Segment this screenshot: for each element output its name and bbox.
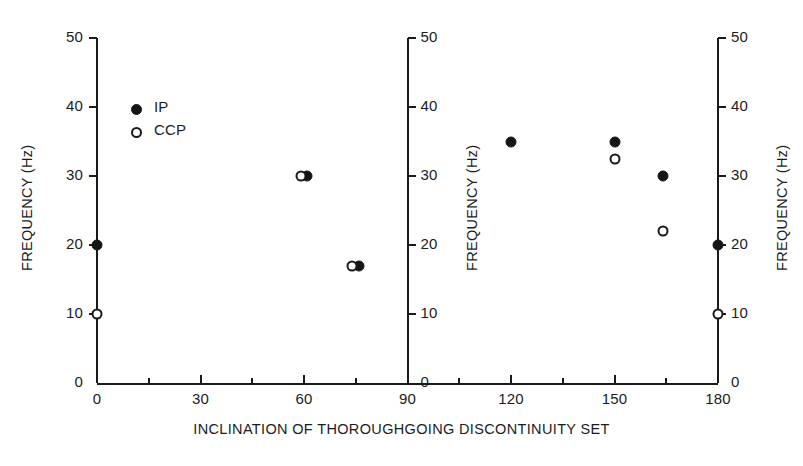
middle-axis-tick	[408, 106, 416, 108]
data-point-ccp	[609, 153, 620, 164]
left-axis-tick-label: 10	[43, 304, 83, 321]
right-axis-tick	[718, 106, 726, 108]
middle-axis-tick-label: 10	[421, 304, 438, 321]
x-axis-tick-minor	[251, 378, 253, 383]
middle-axis-title: FREQUENCY (Hz)	[464, 144, 480, 270]
x-axis-tick-label: 30	[192, 390, 209, 407]
right-axis-title: FREQUENCY (Hz)	[774, 144, 790, 270]
data-point-ccp	[657, 226, 668, 237]
plot-area: 030609012015018001020304050FREQUENCY (Hz…	[0, 0, 803, 466]
x-axis-tick-label: 150	[602, 390, 628, 407]
middle-axis-tick	[408, 244, 416, 246]
data-point-ccp	[295, 171, 306, 182]
right-axis-tick-label: 10	[731, 304, 748, 321]
x-axis-tick-label: 120	[498, 390, 524, 407]
right-axis-tick-label: 0	[731, 373, 740, 390]
x-axis-tick-minor	[355, 378, 357, 383]
middle-axis-tick	[408, 175, 416, 177]
right-axis-tick-label: 40	[731, 97, 748, 114]
data-point-ip	[609, 136, 620, 147]
x-axis-line	[97, 383, 718, 385]
left-axis-tick-label: 20	[43, 235, 83, 252]
x-axis-tick-major	[200, 375, 202, 383]
left-axis-tick-label: 0	[43, 373, 83, 390]
right-axis-tick	[718, 175, 726, 177]
data-point-ip	[92, 240, 103, 251]
legend-marker-filled-circle-icon	[131, 104, 142, 115]
x-axis-tick-label: 60	[295, 390, 312, 407]
x-axis-tick-major	[510, 375, 512, 383]
middle-axis-tick-label: 30	[421, 166, 438, 183]
x-axis-tick-minor	[665, 378, 667, 383]
legend-marker-open-circle-icon	[131, 127, 142, 138]
left-axis-tick-label: 40	[43, 97, 83, 114]
left-axis-tick	[89, 106, 97, 108]
figure-scatter-frequency-vs-inclination: 030609012015018001020304050FREQUENCY (Hz…	[0, 0, 803, 466]
left-axis-tick	[89, 175, 97, 177]
x-axis-tick-label: 90	[399, 390, 416, 407]
x-axis-title: INCLINATION OF THOROUGHGOING DISCONTINUI…	[0, 421, 803, 437]
middle-axis-tick-label: 0	[421, 373, 430, 390]
x-axis-tick-minor	[458, 378, 460, 383]
left-axis-title: FREQUENCY (Hz)	[19, 144, 35, 270]
x-axis-tick-label: 0	[93, 390, 102, 407]
legend-label-ip: IP	[154, 98, 169, 115]
left-axis-tick-label: 50	[43, 28, 83, 45]
x-axis-tick-minor	[148, 378, 150, 383]
legend-label-ccp: CCP	[154, 121, 186, 138]
x-axis-tick-label: 180	[705, 390, 731, 407]
middle-axis-tick-label: 20	[421, 235, 438, 252]
data-point-ccp	[92, 309, 103, 320]
right-axis-tick-label: 30	[731, 166, 748, 183]
x-axis-tick-major	[614, 375, 616, 383]
middle-axis-tick-label: 40	[421, 97, 438, 114]
middle-axis-tick	[408, 37, 416, 39]
data-point-ccp	[713, 309, 724, 320]
right-axis-tick-label: 50	[731, 28, 748, 45]
left-axis-tick	[89, 37, 97, 39]
middle-axis-tick-label: 50	[421, 28, 438, 45]
left-axis-line	[96, 38, 98, 383]
data-point-ip	[713, 240, 724, 251]
right-axis-tick	[718, 37, 726, 39]
right-axis-line	[717, 38, 719, 383]
data-point-ip	[657, 171, 668, 182]
x-axis-tick-major	[303, 375, 305, 383]
right-axis-tick-label: 20	[731, 235, 748, 252]
middle-axis-line	[407, 38, 409, 383]
middle-axis-tick	[408, 313, 416, 315]
x-axis-tick-minor	[562, 378, 564, 383]
data-point-ip	[506, 136, 517, 147]
left-axis-tick-label: 30	[43, 166, 83, 183]
data-point-ccp	[347, 260, 358, 271]
